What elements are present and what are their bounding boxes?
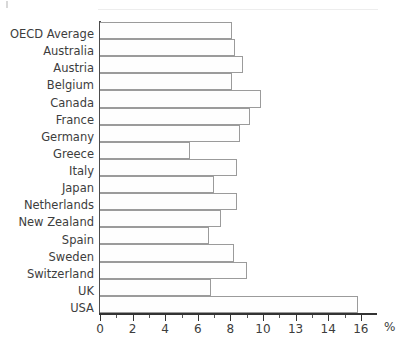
bar xyxy=(100,159,237,176)
x-axis-tick-label: 16 xyxy=(341,322,381,336)
bar xyxy=(100,22,232,39)
bar xyxy=(100,296,358,313)
bar-row xyxy=(100,22,400,39)
bar-row xyxy=(100,296,400,313)
x-axis-line xyxy=(99,313,377,315)
x-axis-tick xyxy=(165,315,166,321)
bar-row xyxy=(100,39,400,56)
bar xyxy=(100,244,234,261)
category-label: Australia xyxy=(0,45,94,57)
x-axis-minor-tick xyxy=(214,315,215,318)
x-axis-tick xyxy=(100,315,101,321)
bar xyxy=(100,90,261,107)
x-axis-tick xyxy=(133,315,134,321)
bar-row xyxy=(100,262,400,279)
category-label: Japan xyxy=(0,182,94,194)
x-axis-minor-tick xyxy=(345,315,346,318)
bar-row xyxy=(100,244,400,261)
x-axis-minor-tick xyxy=(182,315,183,318)
x-axis-tick xyxy=(198,315,199,321)
x-axis-minor-tick xyxy=(312,315,313,318)
x-axis-minor-tick xyxy=(149,315,150,318)
category-label: Netherlands xyxy=(0,199,94,211)
x-axis-minor-tick xyxy=(247,315,248,318)
bar-series xyxy=(100,22,400,313)
bar-row xyxy=(100,279,400,296)
category-label: Italy xyxy=(0,165,94,177)
category-label: Canada xyxy=(0,97,94,109)
category-label: USA xyxy=(0,302,94,314)
bar-row xyxy=(100,142,400,159)
category-axis-labels: OECD AverageAustraliaAustriaBelgiumCanad… xyxy=(0,22,94,313)
category-label: France xyxy=(0,114,94,126)
bar xyxy=(100,227,209,244)
x-axis-minor-tick xyxy=(116,315,117,318)
category-label: Belgium xyxy=(0,79,94,91)
bar-row xyxy=(100,125,400,142)
x-axis-minor-tick xyxy=(279,315,280,318)
plot-area: OECD AverageAustraliaAustriaBelgiumCanad… xyxy=(0,0,416,355)
category-label: Germany xyxy=(0,131,94,143)
category-label: OECD Average xyxy=(0,28,94,40)
category-label: Austria xyxy=(0,62,94,74)
bar-row xyxy=(100,210,400,227)
bar xyxy=(100,193,237,210)
category-label: Sweden xyxy=(0,251,94,263)
bar xyxy=(100,279,211,296)
x-axis-tick xyxy=(328,315,329,321)
bar xyxy=(100,108,250,125)
category-label: Greece xyxy=(0,148,94,160)
bar-row xyxy=(100,56,400,73)
bar xyxy=(100,73,232,90)
bar xyxy=(100,39,235,56)
bar-row xyxy=(100,90,400,107)
category-label: Spain xyxy=(0,234,94,246)
bar xyxy=(100,262,247,279)
bar-row xyxy=(100,193,400,210)
x-axis-unit-label: % xyxy=(384,320,395,334)
bar-row xyxy=(100,227,400,244)
bar-row xyxy=(100,159,400,176)
category-label: Switzerland xyxy=(0,268,94,280)
bar xyxy=(100,176,214,193)
bar-row xyxy=(100,73,400,90)
bar-chart: OECD AverageAustraliaAustriaBelgiumCanad… xyxy=(0,0,416,355)
bar-row xyxy=(100,108,400,125)
category-label: UK xyxy=(0,285,94,297)
bar xyxy=(100,142,190,159)
bar-row xyxy=(100,176,400,193)
bar xyxy=(100,210,221,227)
category-label: New Zealand xyxy=(0,216,94,228)
x-axis-tick xyxy=(361,315,362,321)
bar xyxy=(100,56,243,73)
bar xyxy=(100,125,240,142)
x-axis-tick xyxy=(296,315,297,321)
x-axis-tick xyxy=(263,315,264,321)
x-axis-tick xyxy=(230,315,231,321)
